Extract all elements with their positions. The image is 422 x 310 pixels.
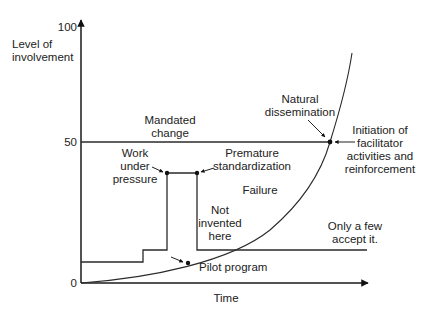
mandated-change-label-2: change xyxy=(151,127,189,139)
work-under-pressure-label-2: under xyxy=(120,160,150,172)
natural-dissemination-label-1: Natural xyxy=(281,93,318,105)
only-a-few-label-1: Only a few xyxy=(328,220,383,232)
natural-dissemination-label-2: dissemination xyxy=(265,106,335,118)
not-invented-here-label-3: here xyxy=(208,230,231,242)
only-a-few-label-2: accept it. xyxy=(332,233,378,245)
work-under-pressure-arrow xyxy=(152,167,163,172)
y-tick-50: 50 xyxy=(64,136,77,148)
y-tick-100: 100 xyxy=(58,21,77,33)
initiation-label-4: reinforcement xyxy=(345,163,416,175)
x-axis-title: Time xyxy=(213,292,238,304)
failure-label: Failure xyxy=(242,184,277,196)
initiation-label-1: Initiation of xyxy=(352,124,408,136)
adoption-diagram: 100 50 0 Level of involvement Time Manda… xyxy=(0,0,422,310)
work-under-pressure-label-3: pressure xyxy=(113,173,158,185)
pilot-program-label: Pilot program xyxy=(199,261,267,273)
work-under-pressure-label-1: Work xyxy=(122,147,149,159)
work-under-pressure-dot xyxy=(165,171,169,175)
y-axis-title-line1: Level of xyxy=(12,38,53,50)
premature-standardization-dot xyxy=(195,171,199,175)
y-axis-title-line2: involvement xyxy=(12,51,74,63)
premature-standardization-label-2: standardization xyxy=(213,160,291,172)
initiation-dot xyxy=(328,140,333,145)
initiation-label-3: activities and xyxy=(347,150,413,162)
natural-dissemination-arrow xyxy=(308,120,325,137)
pilot-program-dot xyxy=(186,261,190,265)
initiation-label-2: facilitator xyxy=(357,137,403,149)
mandated-change-label-1: Mandated xyxy=(144,114,195,126)
y-tick-0: 0 xyxy=(71,277,77,289)
not-invented-here-label-2: invented xyxy=(198,217,241,229)
pilot-program-arrow xyxy=(171,257,183,262)
premature-standardization-label-1: Premature xyxy=(225,147,279,159)
not-invented-here-label-1: Not xyxy=(211,204,230,216)
